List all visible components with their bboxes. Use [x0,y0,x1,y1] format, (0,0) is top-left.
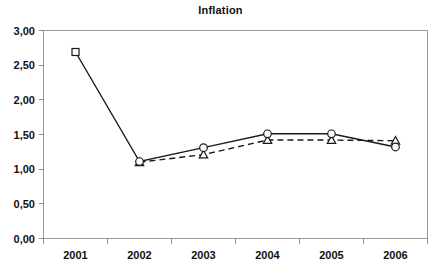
y-axis-label: 2,50 [14,59,35,71]
circle-marker [264,130,272,138]
plot-frame [44,31,428,239]
y-axis-label: 2,00 [14,94,35,106]
square-marker [72,48,79,55]
series-solid-markers [72,48,399,165]
series-solid-line [76,52,396,162]
x-axis-label: 2002 [127,249,151,261]
x-axis-label: 2001 [63,249,87,261]
y-axis-label: 0,50 [14,198,35,210]
y-axis-label: 3,00 [14,25,35,37]
x-axis-label: 2004 [255,249,280,261]
x-axis-label: 2006 [383,249,407,261]
circle-marker [200,144,208,152]
y-axis-labels: 3,00 2,50 2,00 1,50 1,00 0,50 0,00 [14,25,35,245]
plot-area: 3,00 2,50 2,00 1,50 1,00 0,50 0,00 2001 … [0,0,441,266]
circle-marker [328,130,336,138]
x-axis-label: 2003 [191,249,215,261]
y-axis-label: 1,50 [14,129,35,141]
circle-marker [136,158,144,166]
x-axis-ticks [44,239,428,245]
inflation-line-chart: Inflation 3,00 2,50 2,00 1,50 1,00 0,50 … [0,0,441,266]
x-axis-labels: 2001 2002 2003 2004 2005 2006 [63,249,407,261]
x-axis-label: 2005 [319,249,343,261]
y-axis-label: 0,00 [14,233,35,245]
y-axis-ticks [39,31,44,239]
y-axis-label: 1,00 [14,163,35,175]
circle-marker [392,143,400,151]
